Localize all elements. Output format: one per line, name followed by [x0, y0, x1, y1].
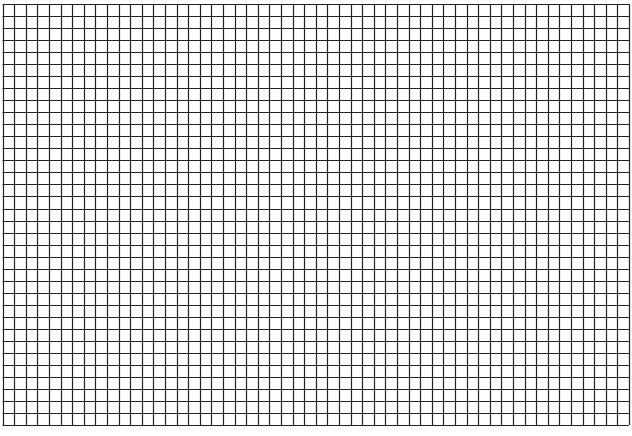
grid-paper	[0, 0, 632, 436]
